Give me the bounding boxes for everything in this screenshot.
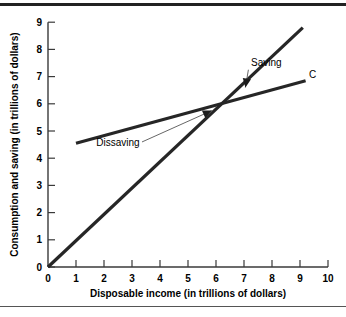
y-tick-label: 0 [36, 262, 42, 273]
annotation-label-saving: Saving [251, 57, 282, 68]
annotations-group [142, 70, 251, 142]
chart-figure: 0123456789 012345678910 Disposable incom… [0, 0, 346, 317]
x-tick-label: 6 [213, 273, 219, 284]
annotation-label-consumption-line: C [309, 69, 316, 80]
x-tick-label: 8 [269, 273, 275, 284]
y-tick-label: 1 [36, 234, 42, 245]
y-axis-tick-labels: 0123456789 [36, 17, 42, 273]
x-tick-label: 0 [45, 273, 51, 284]
y-tick-label: 3 [36, 180, 42, 191]
y-tick-label: 6 [36, 98, 42, 109]
y-tick-label: 8 [36, 44, 42, 55]
x-tick-label: 5 [185, 273, 191, 284]
y-tick-label: 4 [36, 153, 42, 164]
annotation-label-dissaving: Dissaving [96, 137, 139, 148]
x-tick-label: 1 [73, 273, 79, 284]
y-tick-label: 9 [36, 17, 42, 28]
chart-canvas: 0123456789 012345678910 Disposable incom… [0, 0, 346, 317]
axes-group [48, 22, 328, 267]
x-tick-label: 2 [101, 273, 107, 284]
x-tick-label: 4 [157, 273, 163, 284]
x-tick-label: 7 [241, 273, 247, 284]
x-tick-label: 9 [297, 273, 303, 284]
x-tick-label: 3 [129, 273, 135, 284]
y-tick-label: 2 [36, 207, 42, 218]
x-tick-label: 10 [322, 273, 334, 284]
x-axis-ticks [76, 260, 328, 267]
x-axis-tick-labels: 012345678910 [45, 273, 334, 284]
y-axis-title: Consumption and saving (in trillions of … [9, 32, 20, 256]
x-axis-title: Disposable income (in trillions of dolla… [90, 288, 286, 299]
y-axis-ticks [48, 22, 55, 267]
y-tick-label: 7 [36, 71, 42, 82]
y-tick-label: 5 [36, 126, 42, 137]
